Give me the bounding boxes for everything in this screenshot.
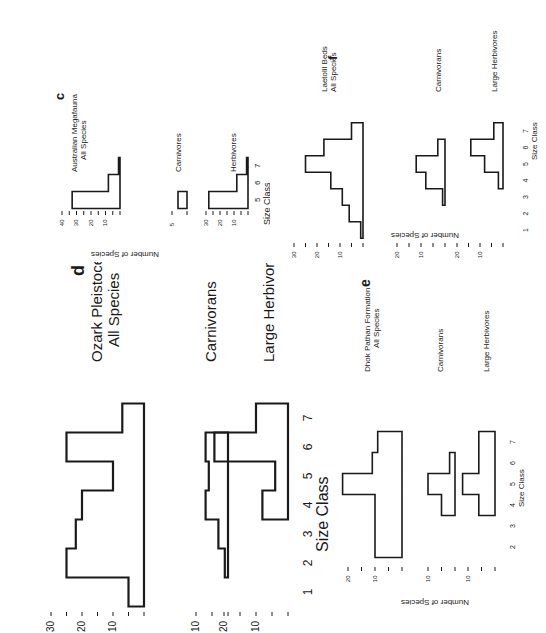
size-class-tick: 6 <box>253 180 262 185</box>
y-tick-label: 10 <box>425 575 431 582</box>
size-class-tick: 5 <box>253 197 262 202</box>
x-axis-label: Size Class <box>530 122 539 160</box>
histogram-carnivores <box>178 192 187 209</box>
panel-d: 10203010Carnivorans1020Large HerbivoresO… <box>40 262 330 633</box>
y-tick-label: 10 <box>103 219 109 226</box>
y-axis-label: Number of Species <box>91 250 159 259</box>
size-class-tick: 2 <box>301 559 315 566</box>
x-axis-label: Size Class <box>262 182 270 225</box>
histogram-carnivorans <box>206 433 228 578</box>
y-tick-label: 20 <box>454 251 460 258</box>
size-class-tick: 6 <box>522 146 529 150</box>
size-class-tick: 5 <box>522 162 529 166</box>
size-class-tick: 5 <box>509 482 516 486</box>
size-class-tick: 4 <box>522 179 529 183</box>
y-axis-label: Number of Species <box>401 598 469 607</box>
panel-title: Laetolil Beds <box>320 46 329 92</box>
y-tick-label: 20 <box>88 219 94 226</box>
size-class-tick: 6 <box>509 461 516 465</box>
y-tick-label: 20 <box>345 575 351 582</box>
size-class-tick: 1 <box>301 588 315 595</box>
size-class-tick: 2 <box>509 545 516 549</box>
panel-letter: f <box>325 55 340 60</box>
y-tick-label: 30 <box>203 219 209 226</box>
panel-subtitle: All Species <box>105 273 122 347</box>
histogram-all-species <box>67 404 145 607</box>
y-tick-label: 20 <box>218 620 229 632</box>
size-class-tick: 1 <box>522 228 529 232</box>
size-class-tick: 3 <box>509 524 516 528</box>
histogram-large-herbivores <box>471 123 503 189</box>
histogram-all-species <box>72 158 120 209</box>
y-tick-label: 5 <box>169 222 175 226</box>
y-tick-label: 10 <box>477 251 483 258</box>
size-class-tick: 3 <box>522 195 529 199</box>
subplot-label: Large Herbivores <box>482 311 491 372</box>
x-axis-label: Size Class <box>314 476 330 552</box>
histogram-large-herbivores <box>463 432 495 516</box>
y-tick-label: 10 <box>465 575 471 582</box>
panel-c-chart: 102030405Carnivores102030HerbivoresAustr… <box>20 60 270 260</box>
panel-letter: e <box>357 279 373 287</box>
y-tick-label: 40 <box>59 219 65 226</box>
panel-f-chart: 1020301020Carnivorans1020Large Herbivore… <box>285 20 546 260</box>
x-axis-label: Size Class <box>517 469 526 507</box>
panel-title: Dhok Pathan Formation <box>363 288 372 373</box>
size-class-tick: 4 <box>509 503 516 507</box>
y-axis-label: Number of Species <box>391 231 459 240</box>
panel-c: 102030405Carnivores102030HerbivoresAustr… <box>20 60 270 260</box>
panel-e-chart: 102010Carnivorans10Large HerbivoresDhok … <box>335 262 546 633</box>
y-tick-label: 10 <box>231 219 237 226</box>
histogram-all-species <box>306 123 364 239</box>
subplot-label: Large Herbivores <box>260 262 277 362</box>
panel-f: 1020301020Carnivorans1020Large Herbivore… <box>285 20 546 260</box>
subplot-label: Carnivorans <box>436 329 445 372</box>
y-tick-label: 30 <box>291 251 297 258</box>
y-tick-label: 20 <box>217 219 223 226</box>
y-tick-label: 30 <box>45 620 56 632</box>
panel-title: Australian Megafauna <box>70 94 79 172</box>
y-tick-label: 30 <box>74 219 80 226</box>
size-class-tick: 7 <box>253 163 262 168</box>
y-tick-label: 10 <box>250 620 261 632</box>
histogram-large-herbivores <box>214 404 288 520</box>
subplot-label: Large Herbivores <box>490 31 499 92</box>
subplot-label: Carnivorans <box>202 281 219 362</box>
panel-subtitle: All Species <box>372 308 381 348</box>
size-class-tick: 7 <box>522 129 529 133</box>
y-tick-label: 10 <box>337 251 343 258</box>
y-tick-label: 20 <box>76 620 87 632</box>
y-tick-label: 10 <box>372 575 378 582</box>
histogram-all-species <box>343 432 402 558</box>
panel-letter: d <box>68 265 88 276</box>
histogram-carnivorans <box>416 139 445 205</box>
panel-letter: c <box>52 93 67 100</box>
size-class-tick: 6 <box>301 443 315 450</box>
panel-e: 102010Carnivorans10Large HerbivoresDhok … <box>335 262 546 633</box>
panel-title: Ozark Pleistocene <box>88 262 105 362</box>
subplot-label: Carnivorans <box>434 49 443 92</box>
y-tick-label: 10 <box>190 620 201 632</box>
y-tick-label: 10 <box>107 620 118 632</box>
panel-subtitle: All Species <box>79 120 88 160</box>
subplot-label: Carnivores <box>174 133 183 172</box>
panel-d-chart: 10203010Carnivorans1020Large HerbivoresO… <box>40 262 330 633</box>
y-tick-label: 10 <box>418 251 424 258</box>
size-class-tick: 7 <box>509 440 516 444</box>
y-tick-label: 20 <box>394 251 400 258</box>
size-class-tick: 2 <box>522 212 529 216</box>
histogram-carnivorans <box>428 453 455 516</box>
y-tick-label: 20 <box>314 251 320 258</box>
size-class-tick: 7 <box>301 414 315 421</box>
subplot-label: Herbivores <box>229 133 238 172</box>
